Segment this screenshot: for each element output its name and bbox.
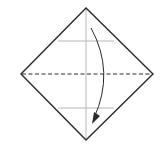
- origami-diagram: [0, 0, 162, 150]
- fold-arrowhead-icon: [92, 112, 100, 124]
